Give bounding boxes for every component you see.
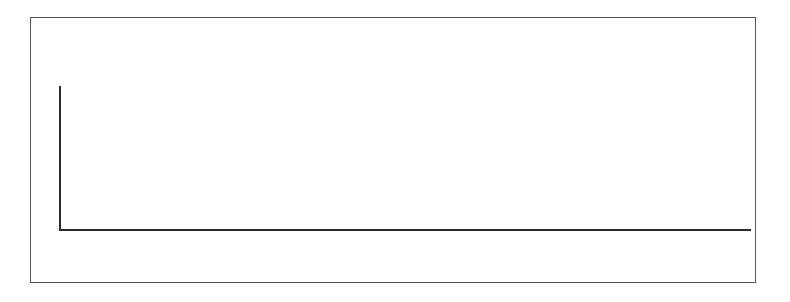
x-axis-line [59, 229, 751, 231]
y-axis-line [59, 86, 61, 231]
chart-page [0, 0, 790, 302]
plot-area [0, 0, 790, 302]
